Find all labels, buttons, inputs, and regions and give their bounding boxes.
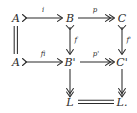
edge-A-to-Bprime: fi [23, 50, 63, 66]
node-B-prime: B' [63, 56, 75, 69]
edge-B-to-Bprime: f [66, 26, 78, 55]
node-A-mid-left: A [11, 56, 20, 69]
edge-label-i: i [42, 6, 44, 14]
node-C-prime: C' [116, 56, 127, 69]
edge-label-f-prime: f' [126, 36, 132, 44]
node-C: C [118, 12, 127, 25]
edge-L-equals-L [78, 100, 114, 103]
node-B: B [65, 12, 74, 25]
node-L-right: L. [116, 96, 128, 109]
node-L-left: L [65, 96, 73, 109]
edge-label-p-prime: p' [93, 50, 99, 58]
node-A-top-left: A [11, 12, 20, 25]
edge-A-equals-A [14, 26, 17, 54]
edge-B-to-C: p [78, 6, 115, 22]
edge-label-f: f [74, 36, 79, 44]
edge-Bprime-to-Cprime: p' [80, 50, 115, 66]
edge-label-p: p [93, 6, 98, 14]
edge-A-to-B: i [23, 6, 63, 22]
diagram-canvas: B --p-->> C ============ --> B1 : monomo… [0, 0, 137, 113]
edge-Cprime-to-L [119, 69, 126, 97]
edge-C-to-Cprime: f' [118, 26, 131, 55]
edge-label-fi: fi [40, 50, 46, 58]
commutative-diagram: B --p-->> C ============ --> B1 : monomo… [0, 0, 137, 113]
edge-Bprime-to-L [67, 69, 74, 97]
